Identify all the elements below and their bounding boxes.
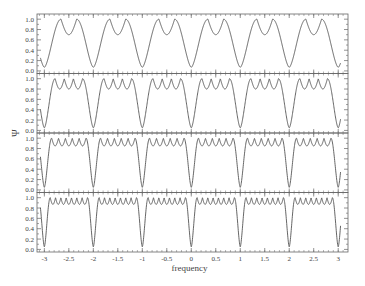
y-tick-label: 0.6	[25, 96, 34, 104]
y-tick-label: 0.4	[25, 166, 34, 174]
x-tick-label: -0.5	[161, 255, 173, 263]
data-line	[40, 198, 340, 247]
chart: 0.00.20.40.60.81.00.00.20.40.60.81.00.00…	[0, 0, 365, 286]
y-tick-label: 1.0	[25, 135, 34, 143]
data-line	[40, 19, 340, 67]
x-axis-label: frequency	[172, 263, 208, 273]
y-tick-label: 0.8	[25, 145, 34, 153]
panel-frame	[37, 14, 348, 74]
y-tick-label: 0.2	[25, 117, 34, 125]
x-tick-label: -1.5	[112, 255, 124, 263]
y-tick-label: 0.6	[25, 155, 34, 163]
x-tick-label: 0	[190, 255, 194, 263]
y-tick-label: 0.8	[25, 205, 34, 213]
y-tick-label: 0.2	[25, 176, 34, 184]
y-tick-label: 0.8	[25, 86, 34, 94]
y-tick-label: 0.4	[25, 47, 34, 55]
x-tick-label: 2.5	[309, 255, 318, 263]
y-axis-label: Ψ	[10, 129, 21, 137]
y-tick-label: 0.2	[25, 236, 34, 244]
x-tick-label: 1	[239, 255, 243, 263]
y-tick-label: 0.8	[25, 26, 34, 34]
x-tick-label: -2.5	[63, 255, 75, 263]
y-tick-label: 0.4	[25, 106, 34, 114]
y-tick-label: 0.0	[25, 246, 34, 254]
x-tick-label: -2	[90, 255, 96, 263]
x-tick-label: -1	[139, 255, 145, 263]
y-tick-label: 1.0	[25, 75, 34, 83]
data-line	[40, 138, 340, 187]
data-line	[40, 79, 340, 128]
y-tick-label: 0.4	[25, 225, 34, 233]
y-tick-label: 0.6	[25, 36, 34, 44]
x-tick-label: 2	[287, 255, 291, 263]
y-tick-label: 1.0	[25, 16, 34, 24]
x-tick-label: 1.5	[260, 255, 269, 263]
y-tick-label: 1.0	[25, 194, 34, 202]
x-tick-label: 3	[336, 255, 340, 263]
x-tick-label: -3	[41, 255, 47, 263]
y-tick-label: 0.6	[25, 215, 34, 223]
x-tick-label: 0.5	[211, 255, 220, 263]
y-tick-label: 0.2	[25, 57, 34, 65]
